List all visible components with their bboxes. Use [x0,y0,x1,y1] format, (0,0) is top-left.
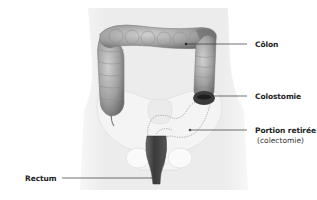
colectomy-diagram: Côlon Colostomie Portion retirée (colect… [0,0,317,200]
colostomy-stoma [193,91,215,105]
label-colon: Côlon [255,40,278,49]
label-removed-portion: Portion retirée [255,126,316,135]
label-colostomy: Colostomie [255,92,301,101]
label-rectum: Rectum [25,174,56,183]
label-colectomy: (colectomie) [257,136,304,145]
